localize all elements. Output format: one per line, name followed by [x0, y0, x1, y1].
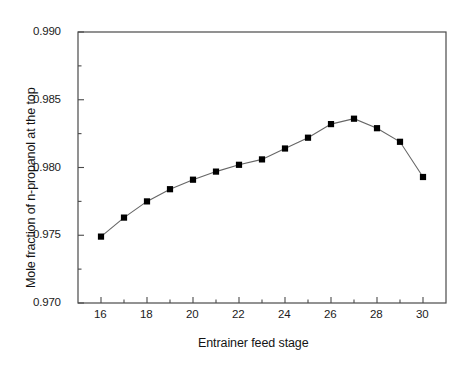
data-point-marker: [420, 174, 426, 180]
data-point-marker: [213, 169, 219, 175]
chart-figure: 0.9700.9750.9800.9850.990 16182022242628…: [0, 0, 472, 366]
data-point-marker: [121, 215, 127, 221]
y-tick-label: 0.970: [33, 296, 61, 308]
data-point-marker: [98, 234, 104, 240]
data-point-marker: [190, 177, 196, 183]
plot-frame: [78, 32, 446, 303]
y-axis-title: Mole fraction of n-propanol at the top: [24, 88, 38, 289]
data-point-marker: [305, 135, 311, 141]
data-point-marker: [236, 162, 242, 168]
x-tick-label: 24: [278, 308, 290, 320]
x-axis-title: Entrainer feed stage: [198, 336, 309, 350]
x-tick-label: 16: [94, 308, 106, 320]
x-tick-label: 20: [186, 308, 198, 320]
x-tick-label: 22: [232, 308, 244, 320]
data-point-marker: [374, 125, 380, 131]
data-point-marker: [328, 121, 334, 127]
data-point-marker: [259, 156, 265, 162]
data-point-marker: [282, 145, 288, 151]
x-tick-label: 18: [140, 308, 152, 320]
data-point-marker: [144, 198, 150, 204]
data-point-marker: [167, 186, 173, 192]
x-tick-label: 28: [370, 308, 382, 320]
data-point-marker: [351, 116, 357, 122]
data-point-marker: [397, 139, 403, 145]
x-tick-label: 26: [324, 308, 336, 320]
x-tick-label: 30: [416, 308, 428, 320]
y-tick-label: 0.990: [33, 25, 61, 37]
